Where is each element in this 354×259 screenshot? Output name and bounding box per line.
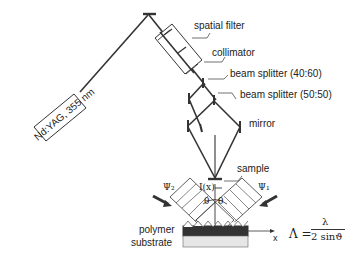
spatial-filter-label: spatial filter: [194, 20, 245, 31]
substrate-label: substrate: [131, 237, 172, 248]
formula-numerator: λ: [322, 216, 328, 227]
theta-left-label: θ: [204, 196, 209, 207]
x-axis-label: x: [273, 233, 278, 244]
intensity-label: I(x): [199, 182, 215, 193]
beam-splitter-1-label: beam splitter (40:60): [230, 68, 322, 79]
fraction-bar: [311, 229, 345, 230]
psi-1-label: Ψ₁: [258, 182, 270, 193]
interference-lithography-diagram: Nd:YAG, 355 nm spatial filter collimator…: [0, 0, 354, 259]
psi-2-label: Ψ₂: [163, 182, 175, 193]
polymer-label: polymer: [139, 224, 175, 235]
theta-right-label: θ: [218, 196, 223, 207]
formula-denominator: 2 sinϑ: [311, 231, 342, 242]
formula-lhs: Λ =: [289, 227, 312, 241]
mirror-label: mirror: [249, 118, 275, 129]
collimator-label: collimator: [212, 47, 255, 58]
sample-label: sample: [237, 163, 269, 174]
beam-splitter-2-label: beam splitter (50:50): [240, 89, 332, 100]
